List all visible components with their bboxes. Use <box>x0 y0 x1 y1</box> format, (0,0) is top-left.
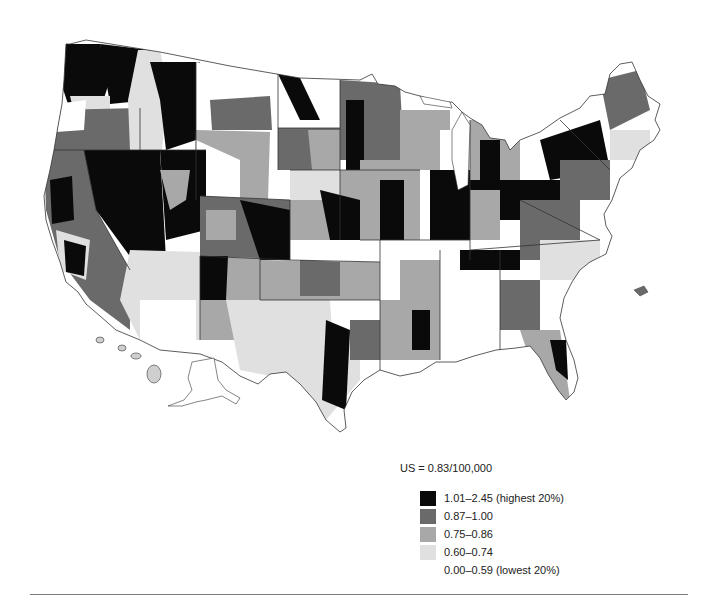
legend-label: 1.01–2.45 (highest 20%) <box>444 492 564 504</box>
legend-item: 0.75–0.86 <box>420 525 564 543</box>
legend-swatch <box>420 527 436 542</box>
legend-item: 1.01–2.45 (highest 20%) <box>420 489 564 507</box>
us-choropleth-map <box>0 0 715 460</box>
legend-swatch <box>420 545 436 560</box>
legend-item: 0.60–0.74 <box>420 543 564 561</box>
legend-swatch <box>420 491 436 506</box>
legend-swatch <box>420 563 436 578</box>
legend-label: 0.60–0.74 <box>444 546 493 558</box>
legend: 1.01–2.45 (highest 20%) 0.87–1.00 0.75–0… <box>420 489 564 579</box>
divider-rule <box>30 594 688 595</box>
us-rate-label: US = 0.83/100,000 <box>400 462 492 474</box>
legend-label: 0.87–1.00 <box>444 510 493 522</box>
puerto-rico <box>634 286 648 296</box>
legend-swatch <box>420 509 436 524</box>
legend-label: 0.00–0.59 (lowest 20%) <box>444 564 560 576</box>
legend-item: 0.00–0.59 (lowest 20%) <box>420 561 564 579</box>
legend-label: 0.75–0.86 <box>444 528 493 540</box>
legend-item: 0.87–1.00 <box>420 507 564 525</box>
